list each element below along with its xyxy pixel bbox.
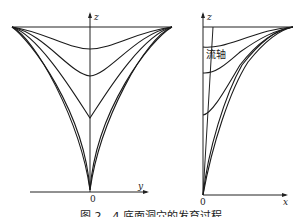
left-panel: z y 0	[12, 12, 172, 204]
right-profile-curve-3	[203, 27, 293, 115]
figure-caption: 图 2 - 4 底面洞穴的发育过程	[0, 207, 302, 217]
right-origin-label: 0	[200, 197, 206, 207]
right-z-arrow-icon	[201, 12, 205, 18]
figure-canvas: z y 0 z x 0 流轴	[0, 0, 302, 217]
left-profile-curve-4	[12, 27, 172, 190]
right-x-label: x	[283, 197, 288, 207]
right-z-label: z	[206, 12, 212, 22]
left-z-label: z	[93, 12, 99, 22]
flow-axis-label: 流轴	[206, 48, 226, 60]
left-y-label: y	[137, 181, 144, 191]
left-profile-curve-3	[12, 27, 172, 118]
right-panel: z x 0 流轴	[200, 12, 293, 207]
left-y-arrow-icon	[143, 190, 149, 194]
left-origin-label: 0	[90, 194, 96, 204]
left-z-arrow-icon	[88, 12, 92, 18]
